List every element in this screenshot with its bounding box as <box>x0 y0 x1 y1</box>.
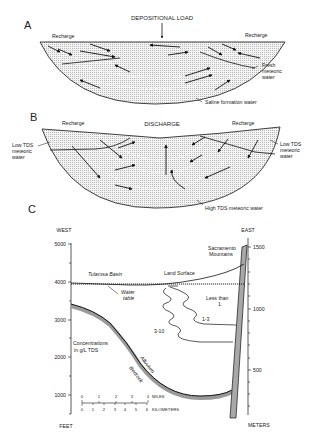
svg-text:6: 6 <box>146 407 149 412</box>
left-tick-3000: 3000 <box>54 317 66 323</box>
zone-1-3-label: 1-3 <box>202 316 210 322</box>
svg-text:3: 3 <box>114 407 117 412</box>
land-surface-label: Land Surface <box>164 270 195 276</box>
low-tds-right-label: Low TDS meteoric water <box>280 141 303 159</box>
svg-text:4: 4 <box>124 407 127 412</box>
basin-b-shape <box>42 127 280 208</box>
less-than-1-label: Less than 1 <box>206 295 230 307</box>
fresh-meteoric-label: Fresh meteoric water <box>262 62 283 80</box>
left-tick-1000: 1000 <box>54 392 66 398</box>
svg-text:0: 0 <box>81 407 84 412</box>
saline-formation-label: Saline formation water <box>205 99 257 105</box>
discharge-label: DISCHARGE <box>144 121 180 127</box>
recharge-right-label: Recharge <box>232 120 255 126</box>
tularosa-basin-label: Tularosa Basin <box>88 271 122 277</box>
right-tick-1000: 1000 <box>253 306 265 312</box>
zone-3-10-label: 3-10 <box>154 328 164 334</box>
right-tick-500: 500 <box>253 367 262 373</box>
recharge-left-label: Recharge <box>62 120 85 126</box>
high-tds-label: High TDS meteoric water <box>205 205 263 211</box>
recharge-right-label: Recharge <box>245 32 268 38</box>
left-tick-2000: 2000 <box>54 354 66 360</box>
panel-c-letter: C <box>28 203 36 215</box>
groundwater-flow-figure: A DEPOSITIONAL LOAD Recharge Recharge Fr… <box>0 0 318 442</box>
svg-text:1: 1 <box>92 407 95 412</box>
east-label: EAST <box>241 227 255 233</box>
panel-b-letter: B <box>30 111 37 123</box>
left-tick-4000: 4000 <box>54 279 66 285</box>
depositional-load-label: DEPOSITIONAL LOAD <box>131 15 194 21</box>
svg-text:3: 3 <box>131 394 134 399</box>
panel-b: B Recharge DISCHARGE Recharge Low TDS me… <box>12 111 303 211</box>
panel-a: A DEPOSITIONAL LOAD Recharge Recharge Fr… <box>24 15 285 105</box>
basin-a-shape <box>40 42 285 104</box>
left-tick-5000: 5000 <box>54 241 66 247</box>
svg-text:5: 5 <box>135 407 138 412</box>
svg-text:2: 2 <box>103 407 106 412</box>
panel-c: C WEST EAST 5000 4000 3000 2000 1000 FEE… <box>28 203 270 429</box>
feet-label: FEET <box>59 423 73 429</box>
svg-text:2: 2 <box>115 394 118 399</box>
svg-text:1: 1 <box>98 394 101 399</box>
sacramento-mountains-label: Sacramento Mountains <box>208 245 237 257</box>
right-tick-1500: 1500 <box>253 244 265 250</box>
miles-label: MILES <box>152 394 165 399</box>
meters-label: METERS <box>248 422 270 428</box>
concentrations-label: Concentrations in g/L TDS <box>73 340 109 353</box>
svg-text:4: 4 <box>147 394 150 399</box>
mountain-block <box>230 245 247 418</box>
kilometers-label: KILOMETERS <box>152 407 179 412</box>
low-tds-left-label: Low TDS meteoric water <box>12 142 35 160</box>
water-table-label: Water table <box>121 289 136 301</box>
west-label: WEST <box>57 227 73 233</box>
recharge-left-label: Recharge <box>52 33 75 39</box>
scale-bar: 0 1 2 3 4 MILES 0 1 2 3 4 5 6 KILOMETERS <box>81 394 179 412</box>
panel-a-letter: A <box>24 19 32 31</box>
svg-text:0: 0 <box>81 394 84 399</box>
